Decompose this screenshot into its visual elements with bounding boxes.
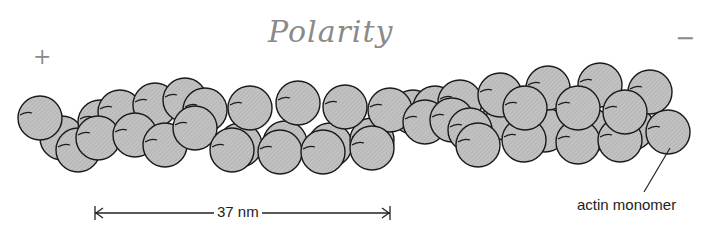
actin-monomer	[258, 130, 302, 174]
actin-monomer	[646, 110, 690, 154]
actin-monomer	[556, 86, 600, 130]
actin-monomer	[301, 130, 345, 174]
actin-monomer	[503, 86, 547, 130]
actin-monomer	[456, 123, 500, 167]
actin-monomer	[323, 85, 367, 129]
actin-monomer-label: actin monomer	[577, 196, 676, 213]
callout-leader-line	[644, 148, 670, 192]
actin-monomer	[276, 81, 320, 125]
scale-bar-label: 37 nm	[214, 203, 262, 220]
actin-monomer	[350, 126, 394, 170]
actin-monomer	[210, 128, 254, 172]
plus-end-marker: +	[33, 44, 51, 69]
polarity-annotation: Polarity	[268, 14, 393, 49]
actin-monomer	[18, 96, 62, 140]
actin-monomer	[228, 86, 272, 130]
minus-end-marker: −	[675, 24, 695, 52]
actin-monomer	[603, 90, 647, 134]
